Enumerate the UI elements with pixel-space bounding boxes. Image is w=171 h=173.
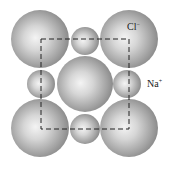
chloride-charge: − bbox=[136, 21, 139, 27]
sodium-symbol: Na bbox=[147, 78, 159, 89]
sodium-charge: + bbox=[159, 78, 162, 84]
ion-spheres bbox=[11, 10, 158, 157]
chloride-label: Cl− bbox=[127, 22, 140, 32]
chloride-ion-sphere bbox=[57, 56, 113, 112]
sodium-label: Na+ bbox=[147, 79, 162, 89]
nacl-diagram: Cl− Na+ bbox=[0, 0, 171, 173]
sodium-ion-sphere bbox=[71, 27, 99, 55]
chloride-ion-sphere bbox=[11, 99, 69, 157]
sodium-ion-sphere bbox=[113, 70, 141, 98]
ion-packing-figure bbox=[0, 0, 171, 173]
